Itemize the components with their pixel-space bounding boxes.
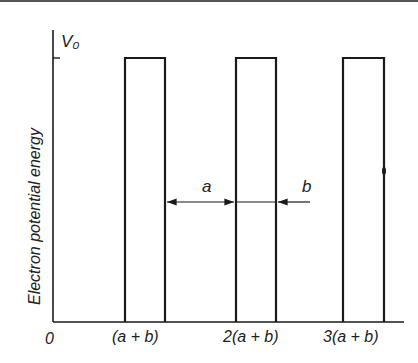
x-tick-1: (a + b) [112, 328, 159, 345]
y-axis-label: Electron potential energy [26, 127, 43, 305]
barrier-3 [343, 58, 384, 322]
v0-label: V₀ [61, 32, 80, 51]
x-tick-3: 3(a + b) [323, 328, 379, 345]
barrier-2 [236, 58, 276, 322]
x-tick-0: 0 [45, 330, 54, 347]
ink-blot [382, 167, 386, 175]
barrier-width-label: b [302, 177, 311, 196]
well-width-label: a [202, 177, 211, 196]
barrier-1 [125, 58, 165, 322]
x-tick-2: 2(a + b) [222, 328, 279, 345]
potential-diagram: V₀ a b Electron potential energy 0 (a + … [0, 0, 418, 363]
